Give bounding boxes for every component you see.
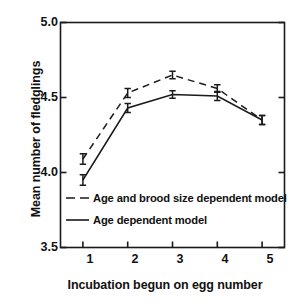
series-2	[80, 91, 266, 186]
axis-ticks	[61, 23, 285, 248]
series-1	[80, 71, 266, 164]
plot-canvas	[0, 0, 294, 303]
legend-swatches	[66, 198, 89, 220]
data-series-layer	[80, 71, 266, 185]
axis-frame	[61, 23, 285, 248]
series-line-2	[83, 95, 262, 181]
chart-figure: Mean number of fledglings 5.0 4.5 4.0 3.…	[0, 0, 294, 303]
series-line-1	[83, 75, 262, 159]
